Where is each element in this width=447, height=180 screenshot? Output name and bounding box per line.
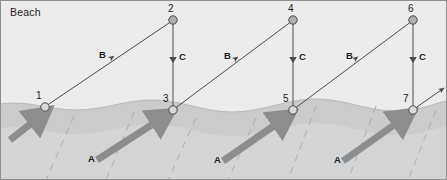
swash-label-1: A xyxy=(88,153,95,164)
backwash-label-1: C xyxy=(179,51,186,62)
point-label-2: 2 xyxy=(168,3,174,14)
longshore-label-3: B xyxy=(346,50,353,61)
point-marker-5 xyxy=(289,106,297,114)
wave-refraction-diagram: Beach 1 2 3 4 5 6 7 B B B C C C A A A xyxy=(0,0,447,180)
point-marker-4 xyxy=(289,16,297,24)
point-marker-3 xyxy=(169,106,177,114)
longshore-label-1: B xyxy=(99,49,106,60)
backwash-label-2: C xyxy=(299,51,306,62)
point-label-1: 1 xyxy=(36,90,42,101)
point-marker-7 xyxy=(409,106,417,114)
point-label-3: 3 xyxy=(163,93,169,104)
point-marker-2 xyxy=(169,16,177,24)
point-marker-1 xyxy=(41,103,49,111)
point-label-7: 7 xyxy=(403,93,409,104)
point-label-6: 6 xyxy=(408,3,414,14)
beach-label: Beach xyxy=(10,6,41,18)
diagram-canvas xyxy=(0,0,447,180)
backwash-label-3: C xyxy=(419,51,426,62)
point-marker-6 xyxy=(409,16,417,24)
swash-label-3: A xyxy=(334,154,341,165)
swash-label-2: A xyxy=(214,154,221,165)
point-label-4: 4 xyxy=(288,3,294,14)
longshore-label-2: B xyxy=(224,50,231,61)
point-label-5: 5 xyxy=(283,93,289,104)
